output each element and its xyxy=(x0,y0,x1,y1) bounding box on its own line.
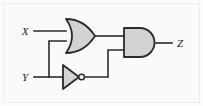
wire-not-to-and xyxy=(84,50,124,77)
not-gate[interactable] xyxy=(63,65,84,89)
logic-circuit-diagram: X Y Z xyxy=(0,0,203,106)
input-label-x: X xyxy=(21,25,30,37)
or-gate[interactable] xyxy=(66,19,95,53)
circuit-canvas: X Y Z xyxy=(0,0,203,106)
input-label-y: Y xyxy=(22,71,30,83)
not-gate-bubble-icon xyxy=(79,74,85,80)
output-label-z: Z xyxy=(177,37,184,49)
not-gate-body[interactable] xyxy=(63,65,79,89)
or-gate-body[interactable] xyxy=(66,19,95,53)
and-gate[interactable] xyxy=(124,28,155,57)
and-gate-body[interactable] xyxy=(124,28,155,57)
